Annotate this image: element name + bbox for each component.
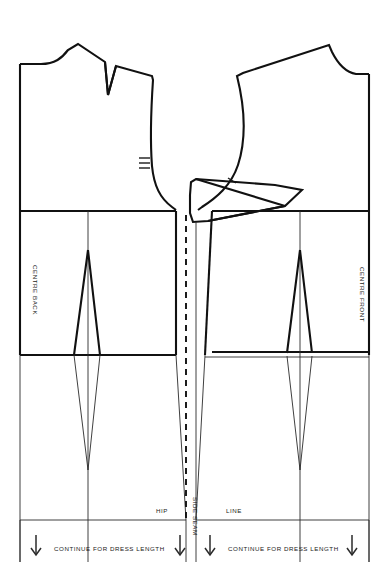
continue-dress-length-front-label: CONTINUE FOR DRESS LENGTH [228, 545, 339, 552]
down-arrow-icon [175, 535, 185, 555]
pattern-drawing-canvas: CENTRE BACK CENTRE FRONT HIP LINE SIDE S… [0, 0, 388, 586]
front-skirt-piece [196, 211, 369, 562]
front-side-seam-upper [205, 211, 212, 355]
centre-back-label: CENTRE BACK [32, 265, 39, 315]
back-shoulder-dart [105, 62, 116, 95]
back-armhole-double-notch-icon [139, 158, 150, 168]
continue-dress-length-back-label: CONTINUE FOR DRESS LENGTH [54, 545, 165, 552]
line-label: LINE [226, 507, 242, 514]
side-seam-label: SIDE SEAM [192, 497, 199, 536]
pattern-diagram: CENTRE BACK CENTRE FRONT HIP LINE SIDE S… [0, 0, 388, 586]
down-arrow-icon [205, 535, 215, 555]
bust-dart-wedge-outline [190, 179, 302, 222]
hip-label: HIP [156, 507, 168, 514]
front-bust-dart-wedge [190, 179, 302, 222]
back-bodice-outline [20, 44, 176, 211]
front-side-seam-lower [196, 355, 205, 520]
back-bodice-piece [20, 44, 176, 211]
back-waist-dart-lower [74, 355, 100, 470]
front-waist-dart-lower [287, 356, 312, 470]
front-waist-dart-upper [287, 250, 312, 353]
back-waist-dart-upper [74, 250, 100, 355]
down-arrow-icon [347, 535, 357, 555]
back-side-seam-lower [176, 355, 186, 520]
down-arrow-icon [31, 535, 41, 555]
centre-front-label: CENTRE FRONT [359, 267, 366, 322]
